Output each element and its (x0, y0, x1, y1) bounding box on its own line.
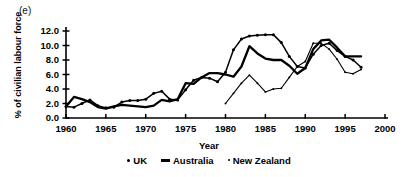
series-marker-new-zealand (272, 88, 274, 90)
x-tick-label: 1960 (48, 123, 84, 134)
series-marker-new-zealand (264, 91, 266, 93)
series-marker-uk (136, 99, 139, 102)
series-marker-uk (248, 35, 251, 38)
chart-figure: (e) % of civilian labour force Year 0.02… (0, 0, 418, 177)
series-marker-uk (264, 33, 267, 36)
series-marker-uk (208, 77, 211, 80)
x-tick-label: 1970 (128, 123, 164, 134)
series-marker-uk (144, 98, 147, 101)
series-marker-uk (160, 90, 163, 93)
legend-label: Australia (173, 155, 214, 166)
series-marker-new-zealand (225, 103, 227, 105)
y-tick-label: 2.0 (29, 98, 59, 109)
legend-item-new-zealand[interactable]: New Zealand (228, 154, 291, 166)
dot-marker-icon (127, 159, 130, 162)
series-marker-new-zealand (344, 71, 346, 73)
y-tick-label: 0.0 (29, 112, 59, 123)
series-marker-new-zealand (336, 58, 338, 60)
series-marker-uk (352, 59, 355, 62)
series-marker-new-zealand (304, 61, 306, 63)
series-marker-new-zealand (280, 87, 282, 89)
y-axis-label: % of civilian labour force (13, 0, 23, 130)
y-tick-label: 4.0 (29, 83, 59, 94)
legend-item-uk[interactable]: UK (127, 154, 147, 166)
series-marker-new-zealand (312, 42, 314, 44)
small-dot-marker-icon (228, 159, 230, 161)
series-marker-uk (360, 66, 363, 69)
chart-legend: UKAustraliaNew Zealand (0, 154, 418, 166)
x-tick-label: 1980 (208, 123, 244, 134)
dash-marker-icon (161, 159, 170, 162)
x-tick-label: 1985 (247, 123, 283, 134)
series-marker-uk (232, 48, 235, 51)
y-tick-label: 12.0 (29, 25, 59, 36)
x-tick-label: 1990 (287, 123, 323, 134)
series-marker-new-zealand (352, 73, 354, 75)
series-marker-uk (216, 80, 219, 83)
series-marker-uk (288, 55, 291, 58)
x-tick-label: 1965 (88, 123, 124, 134)
series-marker-new-zealand (233, 92, 235, 94)
series-marker-uk (256, 34, 259, 37)
series-marker-uk (152, 92, 155, 95)
series-marker-uk (184, 88, 187, 91)
series-marker-uk (120, 101, 123, 104)
y-tick-label: 10.0 (29, 40, 59, 51)
x-tick-label: 2000 (367, 123, 403, 134)
series-marker-new-zealand (320, 42, 322, 44)
legend-label: UK (133, 155, 147, 166)
series-marker-new-zealand (241, 82, 243, 84)
series-marker-uk (280, 41, 283, 44)
legend-item-australia[interactable]: Australia (161, 154, 214, 166)
x-tick-label: 1995 (327, 123, 363, 134)
series-marker-new-zealand (288, 76, 290, 78)
series-marker-uk (80, 102, 83, 105)
legend-label: New Zealand (233, 155, 291, 166)
series-marker-uk (240, 37, 243, 40)
series-marker-uk (192, 79, 195, 82)
series-marker-uk (72, 106, 75, 109)
x-tick-label: 1975 (168, 123, 204, 134)
series-marker-uk (128, 99, 131, 102)
y-tick-label: 8.0 (29, 54, 59, 65)
series-marker-new-zealand (248, 74, 250, 76)
series-marker-new-zealand (256, 82, 258, 84)
series-marker-new-zealand (296, 66, 298, 68)
series-marker-new-zealand (328, 48, 330, 50)
y-tick-label: 6.0 (29, 69, 59, 80)
series-marker-new-zealand (360, 68, 362, 70)
x-axis-label: Year (0, 140, 418, 151)
series-marker-uk (272, 33, 275, 36)
